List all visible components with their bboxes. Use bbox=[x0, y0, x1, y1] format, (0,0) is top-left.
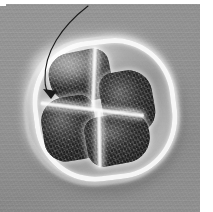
micrograph-figure bbox=[0, 0, 213, 212]
scan-margin-right bbox=[200, 0, 213, 212]
micrograph-image bbox=[0, 4, 200, 212]
specimen-cell bbox=[18, 25, 183, 190]
scan-margin-corner bbox=[0, 0, 6, 6]
scan-margin-top bbox=[0, 0, 213, 4]
septum-vertical-lower bbox=[95, 111, 103, 167]
